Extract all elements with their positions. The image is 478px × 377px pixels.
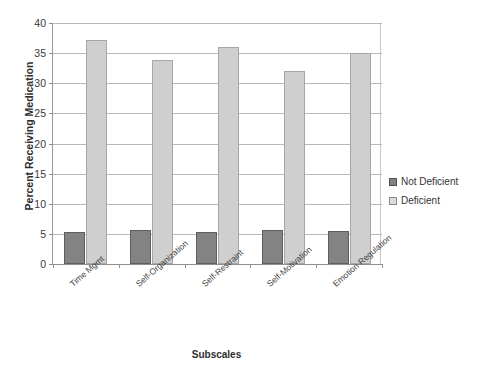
y-axis-title: Percent Receiving Medication bbox=[23, 21, 35, 251]
bar-not-deficient bbox=[328, 231, 349, 264]
bar-deficient bbox=[86, 40, 107, 264]
legend-item[interactable]: Deficient bbox=[389, 195, 475, 206]
y-axis-tick-label: 0 bbox=[40, 258, 46, 270]
y-axis-tick-label: 15 bbox=[34, 168, 46, 180]
y-axis-tick-label: 40 bbox=[34, 17, 46, 29]
bar-not-deficient bbox=[130, 230, 151, 264]
x-axis-tick-mark bbox=[250, 264, 251, 268]
x-axis-tick-mark bbox=[185, 264, 186, 268]
x-axis-tick-mark bbox=[316, 264, 317, 268]
legend-item-label: Deficient bbox=[401, 195, 440, 206]
chart-title bbox=[0, 0, 478, 3]
bar-deficient bbox=[218, 47, 239, 265]
y-axis-tick-mark bbox=[49, 53, 53, 54]
legend-swatch-icon bbox=[389, 178, 397, 186]
chart-legend: Not DeficientDeficient bbox=[389, 176, 475, 214]
x-axis-tick-mark bbox=[382, 264, 383, 268]
bar-deficient bbox=[350, 53, 371, 264]
gridline bbox=[53, 23, 382, 24]
y-axis-tick-mark bbox=[49, 23, 53, 24]
legend-item[interactable]: Not Deficient bbox=[389, 176, 475, 187]
y-axis-tick-label: 25 bbox=[34, 107, 46, 119]
x-axis-title: Subscales bbox=[52, 349, 381, 360]
y-axis-tick-label: 30 bbox=[34, 77, 46, 89]
y-axis-tick-mark bbox=[49, 113, 53, 114]
bar-not-deficient bbox=[262, 230, 283, 264]
y-axis-tick-mark bbox=[49, 174, 53, 175]
bar-deficient bbox=[152, 60, 173, 264]
y-axis-tick-mark bbox=[49, 234, 53, 235]
x-axis-tick-mark bbox=[53, 264, 54, 268]
bar-deficient bbox=[284, 71, 305, 264]
y-axis-tick-label: 20 bbox=[34, 138, 46, 150]
bar-not-deficient bbox=[196, 232, 217, 264]
bar-chart-figure: Percent Receiving Medication 05101520253… bbox=[0, 0, 478, 377]
bar-not-deficient bbox=[64, 232, 85, 264]
y-axis-tick-label: 5 bbox=[40, 228, 46, 240]
y-axis-tick-mark bbox=[49, 144, 53, 145]
y-axis-tick-label: 35 bbox=[34, 47, 46, 59]
y-axis-tick-mark bbox=[49, 204, 53, 205]
plot-area: 0510152025303540 bbox=[52, 23, 381, 264]
y-axis-tick-label: 10 bbox=[34, 198, 46, 210]
y-axis-tick-mark bbox=[49, 83, 53, 84]
legend-swatch-icon bbox=[389, 197, 397, 205]
x-axis-tick-mark bbox=[119, 264, 120, 268]
legend-item-label: Not Deficient bbox=[401, 176, 458, 187]
